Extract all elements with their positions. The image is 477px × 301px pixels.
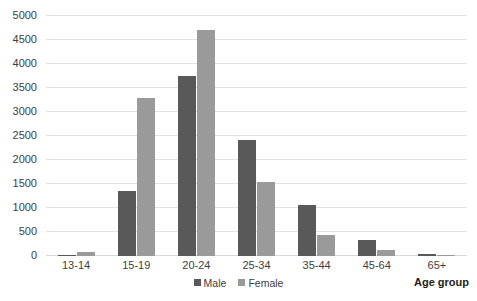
y-axis-tick-label: 1000 [0,202,37,213]
bar-group [418,16,455,256]
y-axis-tick-label: 500 [0,226,37,237]
bar-female-35-44[interactable] [317,235,335,256]
legend-item-male[interactable]: Male [194,276,227,289]
x-axis-tick-label: 65+ [407,259,467,272]
y-axis-tick-label: 3500 [0,82,37,93]
y-axis-tick-label: 3000 [0,106,37,117]
bar-male-45-64[interactable] [358,240,376,256]
bars-layer [46,16,467,256]
x-axis-tick-label: 15-19 [106,259,166,272]
bar-group [58,16,95,256]
x-axis-tick-label: 25-34 [226,259,286,272]
plot-area [46,16,467,256]
y-axis-tick-label: 4500 [0,34,37,45]
x-axis-tick-label: 13-14 [46,259,106,272]
bar-female-13-14[interactable] [77,252,95,256]
bar-group [178,16,215,256]
legend: MaleFemale [0,276,477,289]
x-axis-title: Age group [414,276,469,289]
bar-group [298,16,335,256]
bar-male-13-14[interactable] [58,255,76,256]
y-axis-tick-label: 2000 [0,154,37,165]
bar-male-35-44[interactable] [298,205,316,256]
bar-chart: 0500100015002000250030003500400045005000… [0,0,477,301]
y-axis-tick-label: 4000 [0,58,37,69]
y-axis-tick-label: 2500 [0,130,37,141]
y-axis-tick-label: 1500 [0,178,37,189]
x-axis: 13-1415-1920-2425-3435-4445-6465+ [46,259,467,275]
bar-group [238,16,275,256]
legend-label: Male [204,277,227,289]
bar-male-65+[interactable] [418,254,436,256]
y-axis-tick-label: 0 [0,250,37,261]
legend-label: Female [248,277,283,289]
bar-male-15-19[interactable] [118,191,136,256]
x-axis-tick-label: 35-44 [287,259,347,272]
y-axis-tick-label: 5000 [0,10,37,21]
bar-female-20-24[interactable] [197,30,215,256]
x-axis-tick-label: 45-64 [347,259,407,272]
bar-group [358,16,395,256]
bar-male-25-34[interactable] [238,140,256,256]
bar-female-25-34[interactable] [257,182,275,256]
legend-swatch-male-icon [194,279,201,286]
legend-swatch-female-icon [238,279,245,286]
y-axis: 0500100015002000250030003500400045005000 [0,0,42,272]
bar-female-65+[interactable] [437,255,455,256]
bar-group [118,16,155,256]
x-axis-tick-label: 20-24 [166,259,226,272]
legend-item-female[interactable]: Female [238,276,283,289]
bar-female-45-64[interactable] [377,250,395,256]
bar-male-20-24[interactable] [178,76,196,256]
bar-female-15-19[interactable] [137,98,155,256]
